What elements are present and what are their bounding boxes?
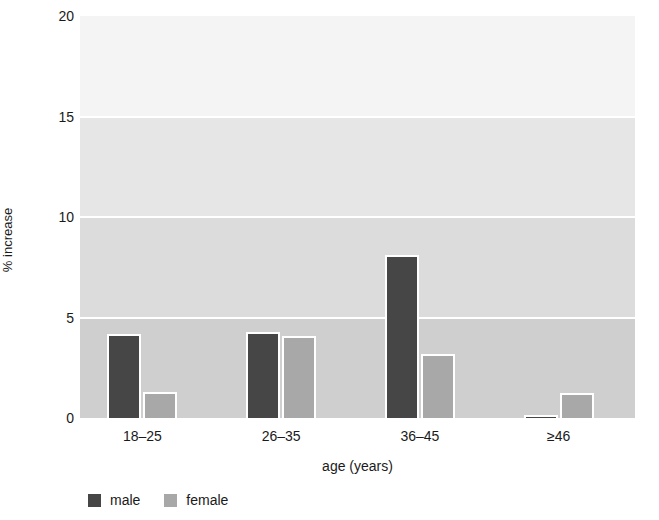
bar-male-26–35	[246, 332, 280, 418]
bar-female-18–25	[143, 392, 177, 418]
bar-male-≥46	[524, 415, 558, 418]
bar-female-26–35	[282, 336, 316, 418]
y-tick-label: 5	[40, 311, 74, 325]
y-axis-tick-labels: 05101520	[34, 0, 74, 520]
y-axis-title: % increase	[0, 180, 15, 300]
female-swatch	[164, 494, 177, 507]
bar-chart: % increase 05101520 18–2526–3536–45≥46 a…	[0, 0, 659, 520]
x-axis-tick-labels: 18–2526–3536–45≥46	[80, 428, 635, 448]
y-tick-label: 0	[40, 411, 74, 425]
bar-male-36–45	[385, 255, 419, 418]
x-axis-title: age (years)	[80, 458, 635, 474]
bar-group	[246, 16, 316, 418]
bar-female-36–45	[421, 354, 455, 418]
plot-area	[80, 16, 635, 418]
x-tick-label: 36–45	[400, 428, 439, 444]
x-tick-label: 26–35	[262, 428, 301, 444]
chart-legend: malefemale	[88, 492, 228, 508]
bar-group	[524, 16, 594, 418]
male-swatch	[88, 494, 101, 507]
legend-label: female	[186, 492, 228, 508]
bar-female-≥46	[560, 393, 594, 418]
bar-group	[107, 16, 177, 418]
legend-item-male: male	[88, 492, 140, 508]
bar-male-18–25	[107, 334, 141, 418]
y-tick-label: 15	[40, 110, 74, 124]
bar-group	[385, 16, 455, 418]
y-tick-label: 20	[40, 9, 74, 23]
x-tick-label: ≥46	[547, 428, 570, 444]
legend-label: male	[110, 492, 140, 508]
y-tick-label: 10	[40, 210, 74, 224]
x-tick-label: 18–25	[123, 428, 162, 444]
legend-item-female: female	[164, 492, 228, 508]
